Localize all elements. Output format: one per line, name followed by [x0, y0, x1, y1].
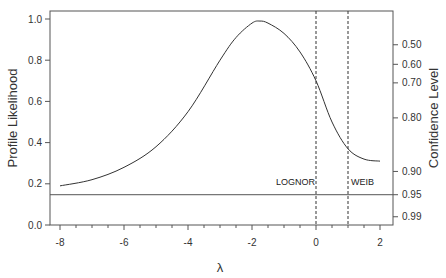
- y2-tick-label: 0.99: [402, 211, 422, 222]
- y2-axis-label: Confidence Level: [426, 68, 441, 169]
- x-tick-label: -2: [248, 237, 257, 248]
- y-tick-label: 0.6: [28, 96, 42, 107]
- model-lines: LOGNORWEIB: [276, 11, 374, 225]
- x-tick-label: -8: [56, 237, 65, 248]
- y-tick-label: 0.2: [28, 178, 42, 189]
- y-tick-label: 0.0: [28, 220, 42, 231]
- y2-tick-label: 0.90: [402, 166, 422, 177]
- x-tick-label: 2: [377, 237, 383, 248]
- y-tick-label: 1.0: [28, 14, 42, 25]
- x-tick-label: -6: [120, 237, 129, 248]
- y2-axis: 0.500.600.700.800.900.950.99: [393, 39, 422, 222]
- y-tick-label: 0.8: [28, 55, 42, 66]
- y2-tick-label: 0.95: [402, 189, 422, 200]
- y-axis: 0.00.20.40.60.81.0: [28, 14, 50, 231]
- y-axis-label: Profile Likelihood: [5, 68, 20, 167]
- x-axis: -8-6-4-202: [56, 225, 384, 248]
- y2-tick-label: 0.60: [402, 59, 422, 70]
- y2-tick-label: 0.50: [402, 39, 422, 50]
- model-label: WEIB: [351, 177, 374, 187]
- x-tick-label: 0: [313, 237, 319, 248]
- y-tick-label: 0.4: [28, 137, 42, 148]
- x-tick-label: -4: [184, 237, 193, 248]
- profile-likelihood-chart: -8-6-4-202 0.00.20.40.60.81.0 0.500.600.…: [0, 0, 446, 278]
- likelihood-curve: [60, 21, 380, 186]
- model-label: LOGNOR: [276, 177, 316, 187]
- plot-frame: [50, 11, 393, 225]
- x-axis-label: λ: [217, 260, 224, 275]
- y2-tick-label: 0.70: [402, 77, 422, 88]
- y2-tick-label: 0.80: [402, 112, 422, 123]
